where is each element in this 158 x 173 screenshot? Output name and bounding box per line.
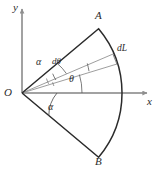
origin-tick-arc-1 (47, 79, 49, 84)
figure-canvas (0, 0, 158, 173)
dtheta-label: dθ (52, 57, 61, 66)
alpha-upper-label: α (36, 57, 41, 67)
axes-group (22, 9, 147, 93)
y-axis-label: y (13, 2, 18, 13)
dl-label: dL (117, 44, 127, 54)
x-axis-label: x (147, 96, 152, 107)
theta-label: θ (69, 74, 74, 84)
origin-label: O (4, 87, 12, 98)
point-a-label: A (95, 10, 102, 21)
geometry-figure: O A B x y α α θ dθ dL (0, 0, 158, 173)
origin-tick-arc-2 (53, 82, 54, 86)
alpha-lower-label: α (48, 102, 53, 112)
theta-arc (79, 75, 82, 93)
point-b-label: B (95, 156, 102, 167)
